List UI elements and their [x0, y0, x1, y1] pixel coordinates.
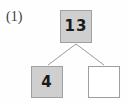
- node-part-left-box[interactable]: 4: [31, 66, 63, 98]
- node-total-value: 13: [65, 19, 88, 34]
- node-part-left-value: 4: [41, 75, 52, 90]
- node-part-right-box[interactable]: [88, 66, 120, 98]
- figure-canvas: (1) 13 4: [0, 0, 130, 102]
- connector-root-to-left: [48, 44, 76, 65]
- connector-root-to-right: [76, 44, 104, 65]
- node-total-box[interactable]: 13: [60, 10, 92, 43]
